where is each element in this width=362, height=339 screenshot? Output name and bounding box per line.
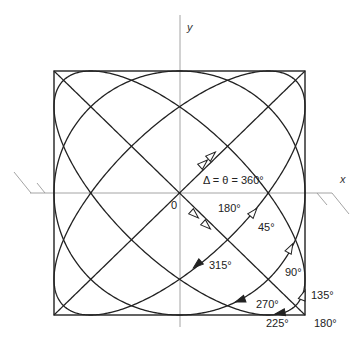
label-delta-theta-360: Δ = θ = 360° [203, 175, 264, 186]
label-270: 270° [256, 299, 279, 310]
label-135: 135° [311, 290, 334, 301]
x-axis-label: x [340, 174, 346, 185]
y-axis-label: y [187, 22, 193, 33]
origin-label: 0 [171, 200, 177, 211]
lissajous-diagram [0, 0, 362, 339]
x-axis-left-mark-inner [37, 183, 45, 193]
label-90: 90° [285, 267, 302, 278]
direction-arrow-icon [189, 209, 201, 221]
label-225: 225° [266, 318, 289, 329]
label-180-inner: 180° [218, 203, 241, 214]
direction-arrow-icon [201, 220, 213, 232]
label-45: 45° [258, 222, 275, 233]
x-axis-left-mark-outer [14, 172, 31, 193]
label-315: 315° [209, 260, 232, 271]
x-axis-right-mark-inner [317, 193, 327, 205]
label-180-corner: 180° [314, 318, 337, 329]
direction-arrow-icon [234, 295, 246, 305]
x-axis-right-mark-outer [332, 193, 349, 214]
